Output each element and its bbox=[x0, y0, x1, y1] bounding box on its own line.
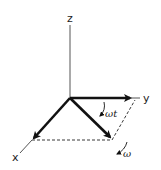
x-axis-label: x bbox=[12, 151, 19, 164]
angle-arc-arrow bbox=[100, 102, 105, 116]
rotating-vector-diagram: z y x ωt ω bbox=[0, 0, 161, 170]
dashed-projection-y bbox=[112, 100, 135, 140]
angular-velocity-label: ω bbox=[123, 148, 131, 159]
y-axis-label: y bbox=[143, 92, 150, 105]
z-axis-label: z bbox=[67, 12, 73, 25]
x-vector bbox=[34, 98, 70, 138]
angle-label: ωt bbox=[105, 108, 118, 119]
diagram-svg: z y x ωt ω bbox=[0, 0, 161, 170]
x-axis-thin bbox=[20, 140, 32, 153]
